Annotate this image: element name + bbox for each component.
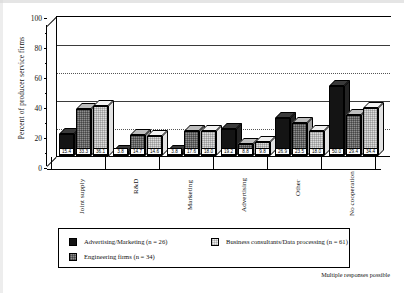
y-tick-label: 20 [16, 134, 42, 143]
bar-value-label: 18.0 [309, 148, 324, 155]
bar-value-label: 33.3 [76, 148, 91, 155]
bar-value-label: 3.8 [167, 148, 182, 155]
bar-value-label: 50.0 [329, 148, 344, 155]
y-tick-label: 40 [16, 104, 42, 113]
bar-series-container: 15.4 33.3 36.1 [47, 16, 390, 170]
bar-value-label: 19.2 [221, 148, 236, 155]
x-axis-label-other: Other [294, 180, 302, 196]
legend-swatch-business-consultants [211, 238, 219, 246]
chart-annotation: Multiple responses possible [321, 271, 390, 278]
chart-legend: Advertising/Marketing (n = 26) Engineeri… [58, 228, 350, 268]
bar-front [329, 86, 344, 156]
bar-value-label: 36.1 [93, 148, 108, 155]
bar-value-label: 15.4 [59, 148, 74, 155]
bar-value-label: 3.8 [113, 148, 128, 155]
legend-label-engineering-firms: Engineering firms (n = 34) [84, 253, 155, 260]
y-tick-label: 60 [16, 74, 42, 83]
bar-value-label: 18.0 [201, 148, 216, 155]
x-axis-label-joint-supply: Joint supply [78, 179, 86, 214]
bar-chart-figure: Percent of producer service firms 100 80… [0, 0, 404, 293]
bar-value-label: 26.9 [275, 148, 290, 155]
x-axis-label-marketing: Marketing [186, 180, 194, 210]
bar-value-label: 29.4 [346, 148, 361, 155]
legend-label-business-consultants: Business consultants/Data processing (n … [226, 238, 348, 245]
x-axis-label-no-cooperation: No cooperation [348, 171, 356, 216]
bar-value-label: 14.6 [147, 148, 162, 155]
bar-side [378, 102, 384, 156]
bar-value-label: 23.5 [292, 148, 307, 155]
legend-label-advertising-marketing: Advertising/Marketing (n = 26) [84, 238, 167, 245]
y-tick-label: 80 [16, 44, 42, 53]
bar-value-label: 8.8 [238, 148, 253, 155]
bar-value-label: 14.7 [130, 148, 145, 155]
x-axis-label-rd: R&D [132, 179, 140, 194]
x-axis-labels: Joint supply R&D Marketing Advertising O… [47, 172, 390, 216]
bar-value-label: 34.4 [363, 148, 378, 155]
plot-area: 15.4 33.3 36.1 [47, 16, 390, 170]
y-tick-label: 0 [16, 164, 42, 173]
legend-swatch-advertising-marketing [69, 238, 77, 246]
x-axis-label-advertising: Advertising [240, 178, 248, 212]
y-axis-ticks: 100 80 60 40 20 0 [14, 18, 46, 170]
legend-swatch-engineering-firms [69, 253, 77, 261]
bar-value-label: 9.8 [255, 148, 270, 155]
bar-value-label: 17.6 [184, 148, 199, 155]
y-tick-label: 100 [16, 14, 42, 23]
